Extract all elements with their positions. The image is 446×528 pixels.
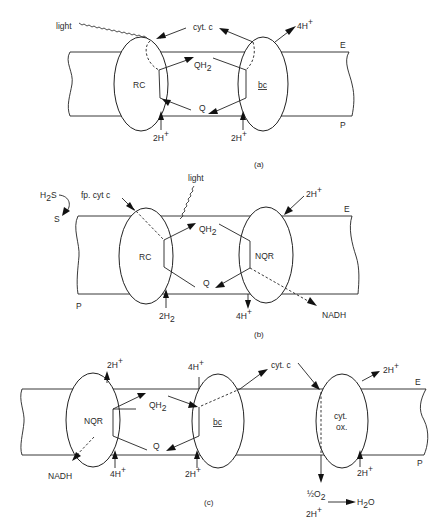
complex-rc-label: RC xyxy=(133,80,145,90)
membrane-b xyxy=(76,216,359,294)
arrow-to-h2o xyxy=(346,499,356,505)
arrow-to-nadh xyxy=(307,297,317,306)
bc-protons-out-label: 4H+ xyxy=(188,358,204,372)
complex-bc-label: bc xyxy=(213,417,223,427)
arrow-to-q xyxy=(166,444,176,451)
panel-a-caption: (a) xyxy=(254,160,264,169)
electron-transport-figure: E P light RC bc cyt. c 4H+ QH2 xyxy=(0,0,446,528)
panel-b-caption: (b) xyxy=(254,330,264,339)
cyt-c-label: cyt. c xyxy=(193,22,214,32)
arrow-to-qh2 xyxy=(184,57,194,63)
panel-c: E P NQR bc cyt. ox. 2H+ NADH 4H+ QH2 Q xyxy=(21,356,428,519)
panel-b: E P light H2S S fp. cyt c RC NQR QH2 Q 2… xyxy=(40,173,359,339)
complex-rc-label: RC xyxy=(139,252,151,262)
q-label: Q xyxy=(203,278,210,288)
fp-cyt-c-label: fp. cyt c xyxy=(81,190,111,200)
membrane-label-p: P xyxy=(340,120,346,130)
protons-out-label: 4H+ xyxy=(236,307,252,321)
panel-a: E P light RC bc cyt. c 4H+ QH2 xyxy=(56,17,354,169)
protons-out-label: 4H+ xyxy=(297,17,313,31)
o2-protons-label: 2H+ xyxy=(306,505,322,519)
protons-rc-label: 2H+ xyxy=(153,129,169,143)
h2o-label: H2O xyxy=(357,497,375,510)
complex-cyt-ox-label-1: cyt. xyxy=(334,411,347,421)
arrow-bc-to-cytc xyxy=(258,369,268,377)
qh2-label: QH2 xyxy=(149,400,167,413)
membrane-a xyxy=(68,52,354,116)
membrane-label-p: P xyxy=(417,458,423,468)
arrow-nqr-2h-out xyxy=(104,371,110,380)
half-o2-label: ½O2 xyxy=(307,489,326,502)
light-label: light xyxy=(56,21,72,31)
panel-c-caption: (c) xyxy=(204,498,214,507)
q-label: Q xyxy=(199,103,206,113)
arrow-to-qh2 xyxy=(187,223,196,230)
membrane-label-e: E xyxy=(415,377,421,387)
light-wave-icon xyxy=(180,186,194,219)
ox-protons-in-label: 2H+ xyxy=(357,464,373,478)
arrow-ox-2h-out xyxy=(371,371,380,378)
light-wave-icon xyxy=(79,23,147,38)
protons-in-label: 2H+ xyxy=(306,185,322,199)
protons-bc-label: 2H+ xyxy=(231,129,247,143)
q-label: Q xyxy=(153,441,160,451)
arrow-to-o2 xyxy=(318,474,324,483)
h2s-label: H2S xyxy=(40,190,57,203)
arrow-to-q xyxy=(215,281,225,288)
h2-label: 2H2 xyxy=(159,311,175,324)
membrane-label-e: E xyxy=(340,40,346,50)
complex-nqr-label: NQR xyxy=(255,251,274,261)
qh2-label: QH2 xyxy=(199,224,217,237)
qh2-label: QH2 xyxy=(194,60,212,73)
complex-nqr-label: NQR xyxy=(84,416,103,426)
cyt-c-label: cyt. c xyxy=(271,360,292,370)
membrane-label-p: P xyxy=(76,301,82,311)
nadh-label: NADH xyxy=(322,310,346,320)
arrow-cytc-to-rc xyxy=(156,32,166,39)
nadh-label: NADH xyxy=(48,471,72,481)
light-label: light xyxy=(188,173,204,183)
nqr-protons-in-label: 4H+ xyxy=(110,465,126,479)
complex-cyt-ox-label-2: ox. xyxy=(336,422,347,432)
arrow-to-qh2 xyxy=(137,393,146,399)
s-label: S xyxy=(54,214,60,224)
arrow-bc-to-cytc xyxy=(219,28,229,35)
arrow-to-q xyxy=(208,108,218,114)
bc-protons-in-label: 2H+ xyxy=(185,465,201,479)
membrane-label-e: E xyxy=(344,204,350,214)
ox-protons-out-label: 2H+ xyxy=(383,361,399,375)
nqr-protons-out-label: 2H+ xyxy=(107,356,123,370)
complex-bc-label: bc xyxy=(258,80,268,90)
